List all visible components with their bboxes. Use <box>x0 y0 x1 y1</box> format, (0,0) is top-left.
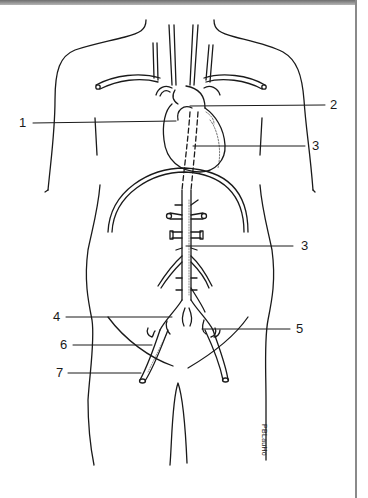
descending-aorta-thoracic <box>182 112 198 190</box>
leader-lines <box>33 105 325 373</box>
artist-signature: PBLauHo <box>261 424 268 456</box>
body-outline <box>45 20 315 465</box>
label-6: 6 <box>60 338 67 351</box>
label-3-thoracic: 3 <box>312 139 319 152</box>
label-4: 4 <box>53 310 60 323</box>
label-5: 5 <box>296 322 303 335</box>
label-1: 1 <box>19 116 26 129</box>
aorta-diagram <box>0 0 368 498</box>
diaphragm <box>108 168 248 232</box>
label-3-abdominal: 3 <box>301 239 308 252</box>
label-7: 7 <box>56 366 63 379</box>
abdominal-aorta <box>158 190 213 330</box>
label-2: 2 <box>330 98 337 111</box>
